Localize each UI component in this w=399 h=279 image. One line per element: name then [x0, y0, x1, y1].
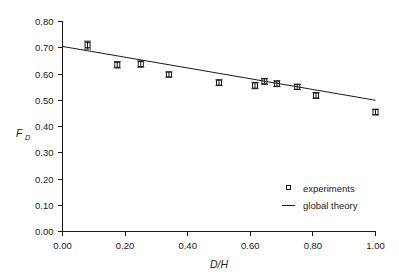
chart-figure: 0.000.200.400.600.801.00 0.000.100.200.3…: [0, 0, 399, 279]
chart-canvas: 0.000.200.400.600.801.00 0.000.100.200.3…: [0, 0, 399, 279]
y-tick-label: 0.80: [35, 16, 54, 27]
data-point: [216, 80, 223, 86]
data-point: [137, 61, 144, 67]
x-tick-label: 0.40: [178, 240, 197, 251]
data-point: [273, 81, 280, 87]
y-tick-label: 0.10: [35, 200, 54, 211]
x-tick-label: 0.00: [53, 240, 72, 251]
data-point: [114, 62, 121, 68]
y-axis-title: F D: [16, 127, 31, 142]
data-point: [84, 41, 91, 49]
x-tick-label: 0.60: [241, 240, 260, 251]
y-axis-title-base: F: [16, 127, 23, 139]
legend-label-experiments: experiments: [303, 183, 355, 194]
y-tick-label: 0.30: [35, 147, 54, 158]
data-point: [313, 93, 320, 99]
x-tick-label: 0.20: [116, 240, 135, 251]
y-tick-label: 0.00: [35, 226, 54, 237]
legend-label-global-theory: global theory: [303, 200, 358, 211]
series-experiments: [84, 41, 379, 115]
data-point: [372, 109, 379, 115]
y-axis-title-subscript: D: [25, 133, 31, 142]
theory-line: [63, 46, 376, 100]
y-tick-label: 0.50: [35, 95, 54, 106]
x-tick-label: 1.00: [366, 240, 385, 251]
series-global-theory: [63, 46, 376, 100]
y-tick-label: 0.60: [35, 69, 54, 80]
x-tick-label: 0.80: [304, 240, 323, 251]
data-point: [165, 72, 172, 77]
y-tick-label: 0.40: [35, 121, 54, 132]
x-tick-labels: 0.000.200.400.600.801.00: [53, 240, 385, 251]
x-axis-title: D/H: [210, 258, 229, 270]
legend: experiments global theory: [282, 183, 358, 211]
y-tick-label: 0.70: [35, 42, 54, 53]
data-point: [261, 78, 268, 84]
data-point: [251, 82, 258, 88]
y-tick-label: 0.20: [35, 174, 54, 185]
data-point: [294, 84, 301, 89]
legend-marker-experiments: [287, 186, 291, 190]
y-tick-labels: 0.000.100.200.300.400.500.600.700.80: [35, 16, 54, 237]
